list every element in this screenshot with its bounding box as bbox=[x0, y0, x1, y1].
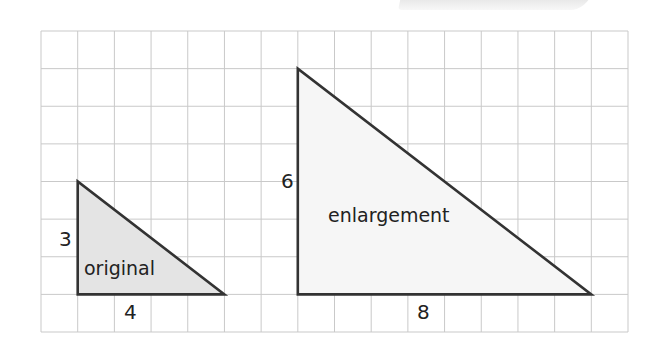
enlargement-height-label: 6 bbox=[281, 169, 294, 193]
enlargement-label: enlargement bbox=[328, 204, 450, 226]
enlargement-base-label: 8 bbox=[417, 300, 430, 324]
original-base-label: 4 bbox=[124, 300, 137, 324]
original-label: original bbox=[84, 257, 155, 279]
original-height-label: 3 bbox=[59, 227, 72, 251]
grid-diagram: original 3 4 enlargement 6 8 bbox=[0, 0, 652, 340]
